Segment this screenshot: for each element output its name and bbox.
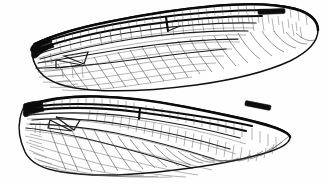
forewing-pterostigma — [258, 9, 285, 15]
hindwing-nodus — [139, 108, 140, 119]
wing-illustration-canvas — [0, 0, 328, 184]
dragonfly-wings-figure: Odonata wing venation — [0, 0, 328, 184]
